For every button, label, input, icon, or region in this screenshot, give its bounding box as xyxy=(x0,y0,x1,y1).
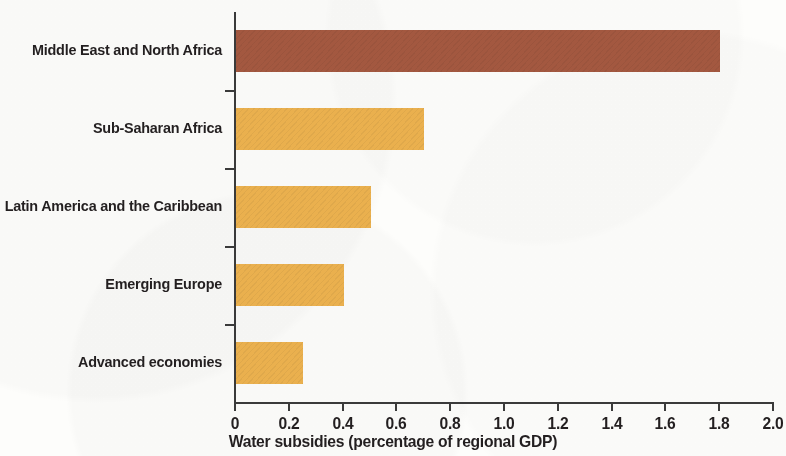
x-axis-tick-label: 0.2 xyxy=(261,414,316,434)
category-label: Sub-Saharan Africa xyxy=(0,119,222,137)
x-axis-tick xyxy=(557,402,559,411)
y-axis-tick xyxy=(225,90,234,92)
y-axis-tick xyxy=(225,324,234,326)
x-axis-tick xyxy=(611,402,613,411)
y-axis-tick xyxy=(225,246,234,248)
x-axis-tick-label: 1.8 xyxy=(692,414,747,434)
x-axis-tick-label: 0.4 xyxy=(315,414,370,434)
category-label: Latin America and the Caribbean xyxy=(0,197,222,215)
x-axis-tick xyxy=(718,402,720,411)
category-label: Advanced economies xyxy=(0,353,222,371)
x-axis-tick-label: 1.4 xyxy=(584,414,639,434)
x-axis-tick xyxy=(772,402,774,411)
category-label: Emerging Europe xyxy=(0,275,222,293)
x-axis-title: Water subsidies (percentage of regional … xyxy=(20,432,767,451)
plot-area: 00.20.40.60.81.01.21.41.61.82.0 xyxy=(234,12,772,402)
x-axis-tick-label: 0 xyxy=(207,414,262,434)
x-axis-tick xyxy=(234,402,236,411)
x-axis-tick-label: 1.0 xyxy=(476,414,531,434)
x-axis-tick-label: 2.0 xyxy=(745,414,786,434)
x-axis-tick-label: 0.8 xyxy=(423,414,478,434)
category-label: Middle East and North Africa xyxy=(0,41,222,59)
bar xyxy=(236,186,371,228)
y-axis-tick xyxy=(225,168,234,170)
x-axis-tick xyxy=(288,402,290,411)
x-axis-tick-label: 1.6 xyxy=(638,414,693,434)
x-axis-tick xyxy=(449,402,451,411)
bar xyxy=(236,30,720,72)
x-axis-tick xyxy=(342,402,344,411)
x-axis-tick xyxy=(664,402,666,411)
x-axis-tick xyxy=(503,402,505,411)
bar xyxy=(236,264,344,306)
bar-chart-figure: Middle East and North AfricaSub-Saharan … xyxy=(0,0,786,456)
bar xyxy=(236,342,303,384)
x-axis-tick-label: 0.6 xyxy=(369,414,424,434)
x-axis-tick xyxy=(395,402,397,411)
bar xyxy=(236,108,424,150)
x-axis-tick-label: 1.2 xyxy=(530,414,585,434)
